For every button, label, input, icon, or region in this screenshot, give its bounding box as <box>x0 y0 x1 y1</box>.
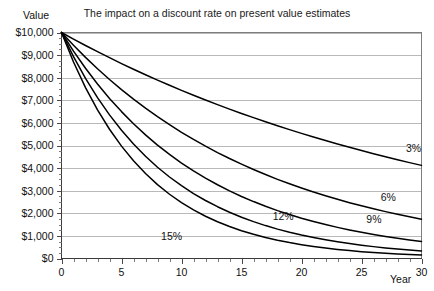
x-tick-label: 30 <box>416 266 428 278</box>
plot-area: $0$1,000$2,000$3,000$4,000$5,000$6,000$7… <box>0 0 434 291</box>
y-axis-tick-labels: $0$1,000$2,000$3,000$4,000$5,000$6,000$7… <box>16 26 54 264</box>
curve-3pct <box>62 33 422 166</box>
x-axis-tick-labels: 051015202530 <box>59 266 428 278</box>
y-tick-label: $3,000 <box>21 185 53 197</box>
y-tick-label: $10,000 <box>16 26 54 38</box>
y-tick-label: $4,000 <box>21 162 53 174</box>
x-tick-label: 5 <box>119 266 125 278</box>
series-label-12pct: 12% <box>273 210 294 222</box>
x-axis-ticks <box>63 259 423 264</box>
y-tick-label: $9,000 <box>21 49 53 61</box>
series-labels: 3%6%9%12%15% <box>161 142 421 242</box>
x-tick-label: 20 <box>296 266 308 278</box>
x-tick-label: 10 <box>176 266 188 278</box>
y-tick-label: $5,000 <box>21 139 53 151</box>
y-tick-label: $2,000 <box>21 207 53 219</box>
y-tick-label: $1,000 <box>21 230 53 242</box>
x-tick-label: 0 <box>59 266 65 278</box>
chart-container: The impact on a discount rate on present… <box>0 0 434 291</box>
x-tick-label: 25 <box>356 266 368 278</box>
series-label-9pct: 9% <box>366 213 381 225</box>
y-tick-label: $6,000 <box>21 117 53 129</box>
series-label-3pct: 3% <box>406 142 421 154</box>
series-label-15pct: 15% <box>161 230 182 242</box>
y-tick-label: $8,000 <box>21 72 53 84</box>
series-label-6pct: 6% <box>381 191 396 203</box>
x-tick-label: 15 <box>236 266 248 278</box>
gridlines <box>62 34 422 237</box>
y-tick-label: $7,000 <box>21 94 53 106</box>
y-tick-label: $0 <box>42 252 54 264</box>
